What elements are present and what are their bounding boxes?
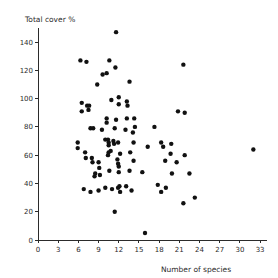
data-point bbox=[118, 152, 122, 156]
data-point bbox=[90, 160, 94, 164]
data-point bbox=[93, 171, 97, 175]
data-point bbox=[103, 185, 107, 189]
data-point bbox=[129, 188, 133, 192]
data-point bbox=[84, 60, 88, 64]
data-point bbox=[169, 142, 173, 146]
data-point bbox=[133, 125, 137, 129]
data-point bbox=[143, 231, 147, 235]
data-point bbox=[131, 159, 135, 163]
data-point bbox=[117, 164, 121, 168]
data-point bbox=[107, 58, 111, 62]
data-point bbox=[187, 171, 191, 175]
data-point bbox=[118, 190, 122, 194]
data-point bbox=[106, 143, 110, 147]
x-axis-title: Number of species bbox=[161, 265, 231, 274]
x-tick-label: 27 bbox=[215, 246, 224, 254]
data-point bbox=[95, 82, 99, 86]
data-point bbox=[109, 98, 113, 102]
x-tick-label: 6 bbox=[76, 246, 81, 254]
data-point bbox=[174, 160, 178, 164]
data-point bbox=[127, 169, 131, 173]
data-point bbox=[104, 116, 108, 120]
x-tick-label: 0 bbox=[36, 246, 40, 254]
data-point bbox=[84, 156, 88, 160]
data-point bbox=[100, 128, 104, 132]
x-tick-label: 21 bbox=[175, 246, 184, 254]
data-point bbox=[128, 150, 132, 154]
data-point bbox=[159, 140, 163, 144]
data-point bbox=[251, 147, 255, 151]
data-point bbox=[127, 79, 131, 83]
x-tick-label: 9 bbox=[96, 246, 100, 254]
data-point bbox=[86, 108, 90, 112]
data-point bbox=[115, 157, 119, 161]
x-tick-label: 3 bbox=[56, 246, 60, 254]
data-point bbox=[96, 160, 100, 164]
data-point bbox=[114, 30, 118, 34]
y-tick-label: 60 bbox=[24, 152, 33, 160]
data-point bbox=[76, 140, 80, 144]
data-point bbox=[110, 187, 114, 191]
data-point bbox=[80, 109, 84, 113]
data-point bbox=[83, 150, 87, 154]
data-point bbox=[113, 126, 117, 130]
data-point bbox=[113, 65, 117, 69]
data-point bbox=[159, 190, 163, 194]
data-point bbox=[82, 187, 86, 191]
data-point bbox=[104, 120, 108, 124]
x-tick-label: 12 bbox=[114, 246, 123, 254]
data-point bbox=[96, 188, 100, 192]
y-tick-label: 20 bbox=[24, 208, 33, 216]
data-point bbox=[90, 156, 94, 160]
y-tick-label: 0 bbox=[29, 237, 33, 245]
data-point bbox=[100, 72, 104, 76]
data-point bbox=[124, 184, 128, 188]
y-axis-title: Total cover % bbox=[24, 15, 75, 24]
data-point bbox=[112, 142, 116, 146]
data-point bbox=[164, 185, 168, 189]
y-tick-label: 120 bbox=[20, 67, 33, 75]
data-point bbox=[168, 152, 172, 156]
data-point bbox=[117, 184, 121, 188]
data-point bbox=[113, 210, 117, 214]
data-point bbox=[125, 103, 129, 107]
x-tick-label: 15 bbox=[134, 246, 143, 254]
data-point bbox=[123, 128, 127, 132]
data-point bbox=[91, 126, 95, 130]
data-point bbox=[76, 146, 80, 150]
data-point bbox=[108, 149, 112, 153]
data-point bbox=[107, 169, 111, 173]
y-tick-label: 40 bbox=[24, 180, 33, 188]
data-point bbox=[117, 95, 121, 99]
data-point bbox=[181, 201, 185, 205]
data-point bbox=[183, 153, 187, 157]
data-point bbox=[161, 144, 165, 148]
data-point bbox=[104, 71, 108, 75]
data-point bbox=[156, 183, 160, 187]
plot-canvas: 02040608010012014003691215182124273033 T… bbox=[0, 0, 278, 278]
data-points bbox=[76, 30, 256, 235]
data-point bbox=[78, 58, 82, 62]
y-tick-label: 140 bbox=[20, 39, 33, 47]
data-point bbox=[131, 140, 135, 144]
tick-labels: 02040608010012014003691215182124273033 bbox=[20, 39, 265, 254]
data-point bbox=[117, 170, 121, 174]
x-tick-label: 18 bbox=[155, 246, 164, 254]
x-tick-label: 24 bbox=[195, 246, 204, 254]
data-point bbox=[87, 103, 91, 107]
data-point bbox=[163, 159, 167, 163]
x-tick-label: 30 bbox=[235, 246, 244, 254]
scatter-plot-figure: 02040608010012014003691215182124273033 T… bbox=[0, 0, 278, 278]
axes bbox=[38, 28, 267, 240]
x-tick-label: 33 bbox=[256, 246, 265, 254]
y-tick-label: 80 bbox=[24, 123, 33, 131]
data-point bbox=[131, 130, 135, 134]
data-point bbox=[146, 144, 150, 148]
data-point bbox=[117, 102, 121, 106]
data-point bbox=[132, 116, 136, 120]
data-point bbox=[170, 171, 174, 175]
data-point bbox=[193, 195, 197, 199]
data-point bbox=[114, 118, 118, 122]
data-point bbox=[125, 116, 129, 120]
data-point bbox=[88, 190, 92, 194]
